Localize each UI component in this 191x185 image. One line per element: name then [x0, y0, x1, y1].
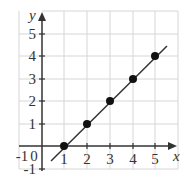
y-tick-3: 3 [29, 71, 37, 87]
y-axis-arrow-icon [38, 12, 46, 21]
x-tick-2: 2 [83, 151, 91, 167]
data-point [129, 75, 137, 83]
x-tick-4: 4 [129, 151, 137, 167]
y-tick-4: 4 [29, 48, 37, 64]
data-point [106, 97, 114, 105]
line-chart: 1 2 3 4 5 -1 0 1 2 3 4 5 -1 x y [0, 0, 191, 185]
y-tick-1: 1 [29, 116, 37, 132]
x-tick-1: 1 [60, 151, 68, 167]
y-tick-2: 2 [29, 93, 37, 109]
data-point [151, 52, 159, 60]
y-tick-5: 5 [29, 26, 37, 42]
x-tick-5: 5 [151, 151, 159, 167]
x-tick-3: 3 [106, 151, 114, 167]
y-axis-label: y [27, 7, 36, 23]
data-point [83, 120, 91, 128]
y-tick-neg1: -1 [24, 161, 37, 177]
x-axis-label: x [172, 148, 180, 164]
data-point [60, 142, 68, 150]
